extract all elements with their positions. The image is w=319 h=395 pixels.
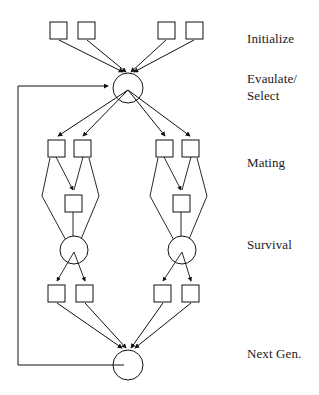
edge-init4-evaluate: [134, 40, 194, 72]
edge-evaluate-mate1: [58, 90, 128, 136]
edge-mate1-offspring-left: [56, 157, 73, 190]
mating-group: [48, 140, 199, 157]
survivors-to-nextgen-edges: [57, 303, 191, 348]
survival-circle-right: [168, 236, 196, 264]
stage-label-survival: Survival: [247, 236, 292, 253]
edge-init1-evaluate: [59, 40, 123, 72]
edge-mate1-bypass-left: [42, 158, 68, 244]
edge-mate4-offspring-right: [182, 157, 191, 190]
stage-label-evaluate-line1: Evaulate/: [247, 70, 297, 87]
offspring-group: [65, 195, 190, 212]
survivor-square-1: [48, 285, 65, 302]
edge-mate3-offspring-right: [164, 157, 181, 190]
edge-surv1-nextgen: [57, 303, 122, 348]
stage-label-evaluate-line2: Select: [247, 87, 297, 104]
mating-square-1: [48, 140, 65, 157]
initialize-square-1: [50, 22, 67, 39]
initialize-square-2: [78, 22, 95, 39]
stage-label-mating: Mating: [247, 154, 285, 171]
offspring-square-left: [65, 195, 82, 212]
survival-circle-left: [60, 236, 88, 264]
survivor-square-2: [76, 285, 93, 302]
evaluate-select-circle: [113, 73, 143, 103]
initialize-to-evaluate-edges: [59, 40, 194, 72]
edge-init3-evaluate: [131, 40, 166, 72]
initialize-group: [50, 22, 203, 39]
edge-mate2-offspring-left: [74, 157, 83, 190]
survivor-square-3: [154, 285, 171, 302]
evolutionary-algorithm-diagram: Initialize Evaulate/ Select Mating Survi…: [0, 0, 319, 395]
mating-square-2: [74, 140, 91, 157]
flow-diagram-canvas: [0, 0, 319, 395]
survivor-square-4: [182, 285, 199, 302]
stage-label-next-gen: Next Gen.: [247, 345, 301, 362]
survivors-group: [48, 285, 199, 302]
edge-evaluate-mate2: [83, 90, 128, 136]
evaluate-select-group: [113, 73, 143, 103]
survival-group: [60, 236, 196, 264]
stage-label-evaluate-select: Evaulate/ Select: [247, 70, 297, 104]
offspring-square-right: [173, 195, 190, 212]
edge-mate3-bypass-right: [150, 158, 176, 244]
edge-init2-evaluate: [87, 40, 126, 72]
edge-surv4-nextgen: [135, 303, 191, 348]
edge-surv3-nextgen: [131, 303, 163, 348]
initialize-square-3: [158, 22, 175, 39]
initialize-square-4: [186, 22, 203, 39]
stage-label-initialize: Initialize: [247, 30, 294, 47]
edge-surv2-nextgen: [85, 303, 126, 348]
mating-square-3: [156, 140, 173, 157]
mating-square-4: [182, 140, 199, 157]
